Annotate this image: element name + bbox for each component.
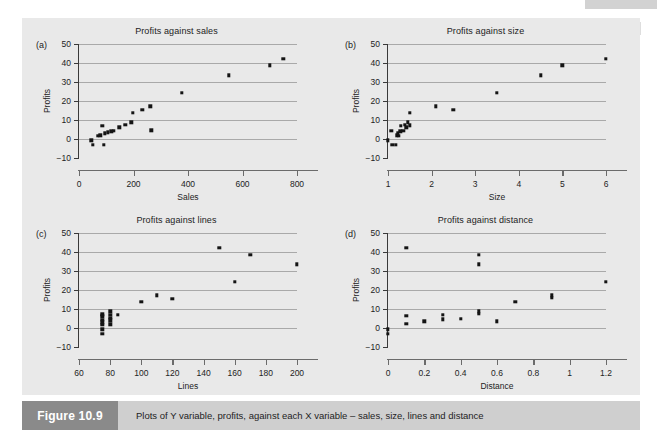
y-axis-tick-label: 0 <box>66 134 71 144</box>
x-axis-tick <box>110 360 111 365</box>
x-axis-title: Lines <box>79 381 297 391</box>
chart-panel-sales: Profits against sales(a)−100102030405002… <box>22 18 331 206</box>
x-axis-tick <box>388 360 389 365</box>
data-point <box>149 105 152 108</box>
y-axis-tick-label: 50 <box>62 228 71 238</box>
chart-title-lines: Profits against lines <box>22 215 331 225</box>
x-axis-tick-label: 180 <box>259 368 273 378</box>
data-point <box>434 105 437 108</box>
data-point <box>101 327 104 330</box>
data-point <box>268 64 271 67</box>
data-point <box>99 133 102 136</box>
x-axis-tick <box>243 171 244 176</box>
y-axis-tick-label: 20 <box>371 96 380 106</box>
gridline <box>79 139 297 140</box>
x-axis-tick-label: 200 <box>290 368 304 378</box>
y-axis-tick <box>74 347 79 348</box>
data-point <box>140 300 143 303</box>
x-axis-tick-label: 0.4 <box>455 368 467 378</box>
x-axis-title: Distance <box>388 381 606 391</box>
data-point <box>101 332 104 335</box>
gridline <box>79 290 297 291</box>
gridline <box>388 233 606 234</box>
x-axis-tick-label: 800 <box>290 179 304 189</box>
gridline <box>388 309 606 310</box>
data-point <box>108 313 111 316</box>
data-point <box>108 322 111 325</box>
data-point <box>217 246 220 249</box>
data-point <box>513 300 516 303</box>
gridline <box>388 120 606 121</box>
data-point <box>112 129 115 132</box>
y-axis-title: Profits <box>351 278 361 302</box>
data-point <box>118 126 121 129</box>
data-point <box>100 124 103 127</box>
chart-title-sales: Profits against sales <box>22 26 331 36</box>
gridline <box>79 328 297 329</box>
data-point <box>150 129 153 132</box>
panel-letter-distance: (d) <box>345 229 356 239</box>
y-axis-tick-label: 50 <box>371 228 380 238</box>
x-axis-tick-label: 1 <box>386 179 391 189</box>
y-axis-tick <box>383 158 388 159</box>
data-point <box>155 294 158 297</box>
data-point <box>495 91 498 94</box>
gridline <box>388 44 606 45</box>
gridline <box>388 252 606 253</box>
y-axis-tick-label: 30 <box>62 266 71 276</box>
figure-root: Profits against sales(a)−100102030405002… <box>0 0 657 448</box>
x-axis-tick-label: 3 <box>473 179 478 189</box>
x-axis-tick <box>497 360 498 365</box>
y-axis-tick-label: 20 <box>62 285 71 295</box>
data-point <box>386 332 389 335</box>
gridline <box>388 63 606 64</box>
x-axis-title: Sales <box>79 192 297 202</box>
data-point <box>459 317 462 320</box>
x-axis-tick-label: 2 <box>429 179 434 189</box>
y-axis-title: Profits <box>42 89 52 113</box>
data-point <box>604 57 607 60</box>
y-axis-tick-label: −10 <box>366 342 380 352</box>
x-axis-line <box>387 170 627 171</box>
chart-grid: Profits against sales(a)−100102030405002… <box>22 18 640 395</box>
data-point <box>116 313 119 316</box>
y-axis-tick-label: 50 <box>62 39 71 49</box>
y-axis-tick-label: 20 <box>62 96 71 106</box>
x-axis-tick-label: 140 <box>196 368 210 378</box>
data-point <box>101 318 104 321</box>
data-point <box>404 322 407 325</box>
data-point <box>452 108 455 111</box>
y-axis-tick-label: −10 <box>57 342 71 352</box>
gridline <box>388 139 606 140</box>
x-axis-tick-label: 160 <box>228 368 242 378</box>
gridline <box>388 82 606 83</box>
x-axis-tick-label: 80 <box>105 368 114 378</box>
gridline <box>79 233 297 234</box>
x-axis-tick <box>461 360 462 365</box>
x-axis-tick-label: 0.2 <box>418 368 430 378</box>
data-point <box>130 121 133 124</box>
y-axis-tick-label: −10 <box>57 153 71 163</box>
x-axis-tick-label: 0 <box>386 368 391 378</box>
data-point <box>233 280 236 283</box>
data-point <box>102 143 105 146</box>
x-axis-tick <box>606 360 607 365</box>
x-axis-tick <box>134 171 135 176</box>
y-axis-tick-label: 40 <box>371 247 380 257</box>
y-axis-tick-label: 20 <box>371 285 380 295</box>
gridline <box>388 290 606 291</box>
x-axis-tick <box>204 360 205 365</box>
y-axis-tick-label: 40 <box>371 58 380 68</box>
x-axis-tick <box>606 171 607 176</box>
y-axis-tick-label: 10 <box>371 115 380 125</box>
x-axis-tick <box>188 171 189 176</box>
data-point <box>394 143 397 146</box>
chart-title-distance: Profits against distance <box>331 215 640 225</box>
data-point <box>441 313 444 316</box>
data-point <box>550 296 553 299</box>
data-point <box>441 318 444 321</box>
y-axis-title: Profits <box>351 89 361 113</box>
x-axis-tick-label: 400 <box>181 179 195 189</box>
x-axis-tick <box>432 171 433 176</box>
x-axis-tick-label: 5 <box>560 179 565 189</box>
